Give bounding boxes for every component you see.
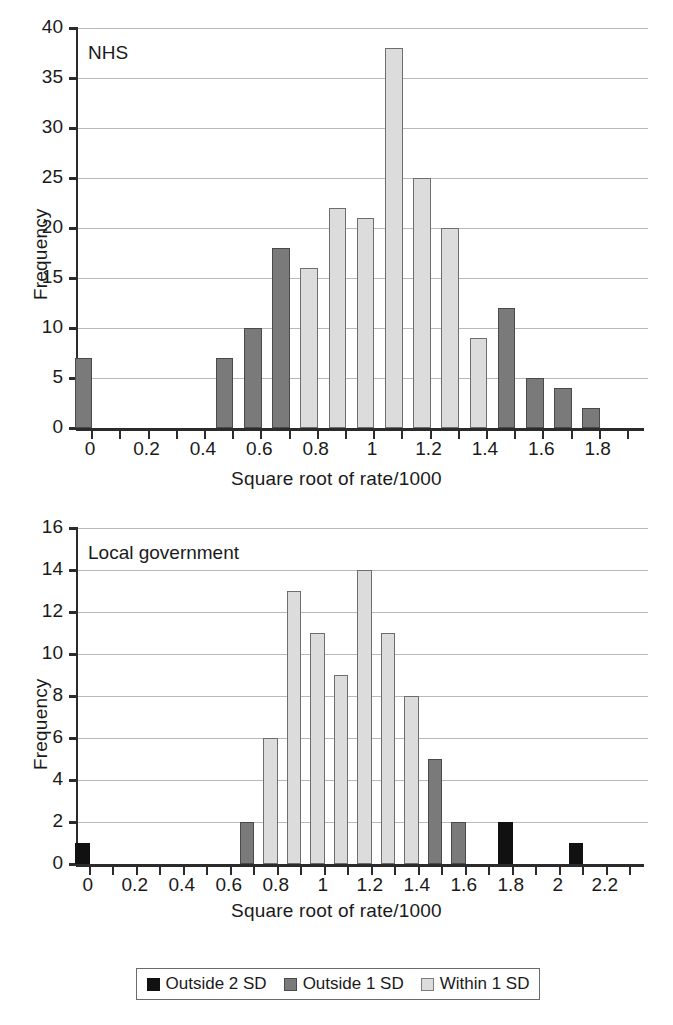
y-axis-tick-label: 16 xyxy=(42,516,63,538)
y-axis-tick-label: 5 xyxy=(52,366,63,388)
y-axis-tick-label: 35 xyxy=(42,66,63,88)
histogram-bar xyxy=(385,48,402,428)
x-axis-label-nhs: Square root of rate/1000 xyxy=(0,468,673,490)
histogram-bar xyxy=(441,228,458,428)
y-axis-tick xyxy=(69,569,78,572)
histogram-bar xyxy=(272,248,289,428)
legend-item-out2: Outside 2 SD xyxy=(147,974,267,994)
y-axis-tick-label: 12 xyxy=(42,600,63,622)
histogram-bar xyxy=(582,408,599,428)
gridline xyxy=(78,78,648,79)
legend-swatch-icon xyxy=(421,978,434,991)
histogram-bar xyxy=(329,208,346,428)
histogram-bar xyxy=(216,358,233,428)
legend-item-label: Outside 2 SD xyxy=(166,974,267,994)
x-axis-tick-label: 1.6 xyxy=(511,438,571,460)
gridline xyxy=(78,528,648,529)
y-axis-tick xyxy=(69,77,78,80)
histogram-bar xyxy=(357,570,372,864)
legend: Outside 2 SDOutside 1 SDWithin 1 SD xyxy=(136,968,540,1000)
gridline xyxy=(78,28,648,29)
histogram-bar xyxy=(244,328,261,428)
figure-root: Frequency NHS Square root of rate/1000 0… xyxy=(0,0,673,1025)
y-axis-label-local-government: Frequency xyxy=(30,678,52,770)
gridline xyxy=(78,128,648,129)
histogram-bar xyxy=(287,591,302,864)
y-axis-tick-label: 14 xyxy=(42,558,63,580)
y-axis-tick xyxy=(69,779,78,782)
y-axis-tick xyxy=(69,653,78,656)
x-axis-tick-label: 2.2 xyxy=(575,874,635,896)
chart-title-nhs: NHS xyxy=(88,42,128,64)
y-axis-tick-label: 4 xyxy=(52,768,63,790)
x-axis-tick-label: 0.2 xyxy=(117,438,177,460)
y-axis-tick xyxy=(69,611,78,614)
x-axis-tick-label: 0.4 xyxy=(173,438,233,460)
y-axis-tick-label: 10 xyxy=(42,316,63,338)
plot-area-local-government xyxy=(76,528,640,864)
histogram-bar xyxy=(300,268,317,428)
histogram-bar xyxy=(526,378,543,428)
legend-item-within: Within 1 SD xyxy=(421,974,530,994)
y-axis-tick-label: 8 xyxy=(52,684,63,706)
histogram-bar xyxy=(240,822,255,864)
histogram-bar xyxy=(310,633,325,864)
y-axis-tick-label: 40 xyxy=(42,16,63,38)
y-axis-tick xyxy=(69,695,78,698)
y-axis-tick xyxy=(69,127,78,130)
y-axis-tick xyxy=(69,327,78,330)
y-axis-tick-label: 15 xyxy=(42,266,63,288)
histogram-bar xyxy=(498,822,513,864)
y-axis-tick xyxy=(69,177,78,180)
chart-panel-local-government: Frequency Local government Square root o… xyxy=(0,500,673,955)
y-axis-tick-label: 6 xyxy=(52,726,63,748)
histogram-bar xyxy=(404,696,419,864)
y-axis-tick-label: 0 xyxy=(52,852,63,874)
x-axis-tick-label: 0.8 xyxy=(286,438,346,460)
histogram-bar xyxy=(381,633,396,864)
legend-item-label: Outside 1 SD xyxy=(303,974,404,994)
legend-swatch-icon xyxy=(147,978,160,991)
y-axis-tick xyxy=(69,27,78,30)
histogram-bar xyxy=(554,388,571,428)
histogram-bar xyxy=(569,843,584,864)
gridline xyxy=(78,178,648,179)
histogram-bar xyxy=(413,178,430,428)
x-axis-line xyxy=(76,428,644,431)
histogram-bar xyxy=(428,759,443,864)
histogram-bar xyxy=(470,338,487,428)
legend-item-out1: Outside 1 SD xyxy=(284,974,404,994)
histogram-bar xyxy=(357,218,374,428)
y-axis-tick xyxy=(69,737,78,740)
y-axis-tick xyxy=(69,227,78,230)
histogram-bar xyxy=(263,738,278,864)
y-axis-tick xyxy=(69,821,78,824)
plot-area-nhs xyxy=(76,28,640,428)
histogram-bar xyxy=(334,675,349,864)
x-axis-tick-label: 1.2 xyxy=(399,438,459,460)
y-axis-tick-label: 10 xyxy=(42,642,63,664)
x-axis-tick-label: 1.4 xyxy=(455,438,515,460)
y-axis-tick-label: 0 xyxy=(52,416,63,438)
histogram-bar xyxy=(498,308,515,428)
y-axis-tick xyxy=(69,277,78,280)
chart-title-local-government: Local government xyxy=(88,542,239,564)
legend-item-label: Within 1 SD xyxy=(440,974,530,994)
legend-swatch-icon xyxy=(284,978,297,991)
x-axis-tick-label: 0.6 xyxy=(229,438,289,460)
x-axis-label-local-government: Square root of rate/1000 xyxy=(0,900,673,922)
x-axis-tick-label: 1 xyxy=(342,438,402,460)
histogram-bar xyxy=(75,358,92,428)
chart-panel-nhs: Frequency NHS Square root of rate/1000 0… xyxy=(0,0,673,500)
y-axis-tick-label: 20 xyxy=(42,216,63,238)
histogram-bar xyxy=(451,822,466,864)
x-axis-tick-label: 1.8 xyxy=(568,438,628,460)
y-axis-tick xyxy=(69,527,78,530)
y-axis-tick-label: 30 xyxy=(42,116,63,138)
y-axis-tick-label: 2 xyxy=(52,810,63,832)
y-axis-tick-label: 25 xyxy=(42,166,63,188)
histogram-bar xyxy=(75,843,90,864)
x-axis-tick-label: 0 xyxy=(60,438,120,460)
